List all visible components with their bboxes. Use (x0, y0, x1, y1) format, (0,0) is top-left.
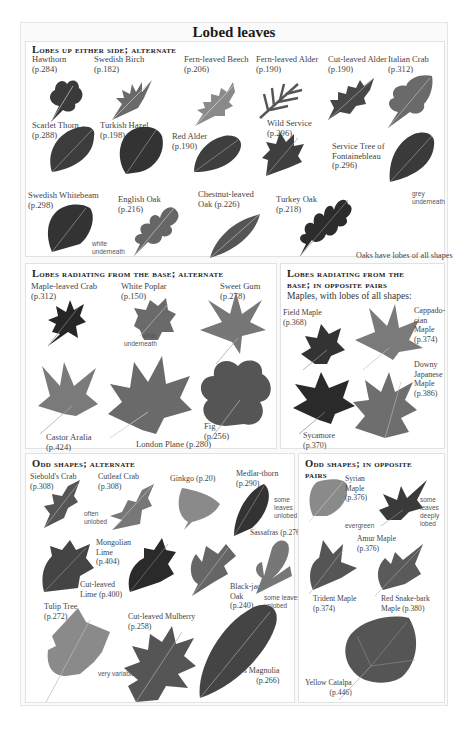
leaf-hawthorn-image (44, 76, 86, 124)
leaf-red-alder-image (192, 132, 244, 174)
leaf-turkish-hazel-image (116, 124, 166, 176)
leaf-wild-service-image (262, 128, 306, 178)
section-heading: Odd shapes; alternate (32, 458, 135, 469)
leaf-guide-page: Lobed leaves Lobes up either side; alter… (20, 22, 448, 706)
section-heading: Lobes radiating from thebase; in opposit… (287, 268, 404, 290)
leaf-red-snake-bark-maple-image (371, 544, 427, 596)
leaf-scarlet-thorn-image (48, 124, 96, 174)
leaf-chestnut-leaved-oak-image (208, 214, 262, 260)
label-sargents-magnolia: Sargent's Magnolia(p.266) (218, 666, 280, 685)
leaf-english-oak-image (130, 202, 182, 258)
label-red-snake-bark-maple: Red Snake-bark Maple (p.380) (381, 594, 430, 613)
note-white-underneath-poplar: white underneath (124, 332, 157, 348)
leaf-field-maple-image (299, 320, 347, 370)
label-hawthorn: Hawthorn(p.284) (32, 55, 66, 74)
label-downy-japanese-maple: Downy Japanese Maple(p.386) (414, 360, 442, 398)
leaf-turkey-oak-image (296, 192, 356, 258)
leaf-fern-leaved-alder-image (258, 80, 304, 120)
leaf-swedish-birch-image (108, 78, 154, 122)
note-some-leaves-unlobed-medlar: some leaves unlobed (274, 496, 297, 520)
note-very-variable: very variable (98, 670, 135, 678)
label-fern-leaved-beech: Fern-leaved Beech(p.206) (184, 55, 249, 74)
leaf-maple-leaved-crab-image (44, 298, 88, 348)
label-yellow-catalpa: Yellow Catalpa(p.446) (305, 678, 352, 697)
leaf-sassafras-image (252, 536, 296, 596)
label-sycamore: Sycamore(p.370) (303, 431, 335, 450)
leaf-sycamore-image (291, 372, 355, 434)
label-ginkgo: Ginkgo (p.20) (170, 474, 215, 484)
leaf-cappadocian-maple-image (353, 304, 423, 370)
label-service-tree-fontainebleau: Service Tree of Fontainebleau(p.296) (332, 142, 385, 171)
leaf-service-tree-fontainebleau-image (388, 128, 436, 184)
leaf-sweet-gum-image (198, 292, 266, 364)
label-castor-aralia: Castor Aralia(p.424) (46, 433, 92, 452)
section-radiating-alternate: Lobes radiating from the base; alternate… (25, 263, 277, 449)
note-often-unlobed: often unlobed (84, 510, 107, 526)
leaf-sargents-magnolia-image (196, 602, 280, 700)
section-lobes-either-side: Lobes up either side; alternate Hawthorn… (25, 41, 445, 257)
leaf-mongolian-lime-image (124, 536, 176, 594)
leaf-tulip-tree-image (42, 606, 112, 702)
leaf-italian-crab-image (384, 72, 436, 130)
label-fig: Fig(p.256) (204, 422, 229, 441)
section-radiating-opposite: Lobes radiating from thebase; in opposit… (280, 263, 445, 449)
leaf-fern-leaved-beech-image (191, 80, 241, 128)
leaf-cut-leaved-mulberry-image (122, 622, 198, 706)
label-cappadocian-maple: Cappado- cian Maple(p.374) (414, 306, 445, 344)
leaf-castor-aralia-image (34, 356, 100, 434)
label-trident-maple: Trident Maple(p.374) (313, 594, 356, 613)
label-london-plane: London Plane (p.280) (136, 440, 211, 450)
note-grey-underneath: grey underneath (412, 190, 445, 206)
label-fern-leaved-alder: Fern-leaved Alder(p.190) (256, 55, 318, 74)
leaf-siebolds-crab-image (40, 480, 82, 530)
section-odd-alternate: Odd shapes; alternate Siebold's Crab(p.3… (25, 453, 295, 703)
label-cut-leaved-alder: Cut-leaved Alder(p.190) (328, 55, 387, 74)
note-white-underneath: white underneath (92, 240, 125, 256)
leaf-cutleaf-crab-image (106, 484, 156, 532)
note-evergreen: evergreen (345, 522, 374, 530)
leaf-downy-japanese-maple-image (351, 372, 417, 444)
leaf-london-plane-image (104, 354, 194, 440)
leaf-trident-maple-image (307, 538, 359, 594)
leaf-cut-leaved-alder-image (326, 76, 378, 122)
leaf-syrian-maple-image (307, 476, 349, 522)
section-odd-opposite: Odd shapes; in oppositepairs Syrian Mapl… (298, 453, 445, 703)
note-oaks-lobes: Oaks have lobes of all shapes (356, 251, 453, 261)
page-title: Lobed leaves (21, 24, 447, 41)
section-subtitle: Maples, with lobes of all shapes: (287, 291, 412, 301)
note-some-leaves-deeply-lobed: some leaves deeply lobed (420, 496, 439, 528)
section-heading: Lobes radiating from the base; alternate (32, 268, 223, 279)
label-cut-leaved-lime: Cut-leaved Lime (p.400) (80, 580, 122, 599)
leaf-swedish-whitebeam-image (46, 202, 96, 254)
label-swedish-birch: Swedish Birch(p.182) (94, 55, 144, 74)
leaf-ginkgo-image (174, 486, 222, 532)
label-chestnut-leaved-oak: Chestnut-leaved Oak (p.226) (198, 190, 254, 209)
label-syrian-maple: Syrian Maple (p.376) (345, 474, 367, 503)
